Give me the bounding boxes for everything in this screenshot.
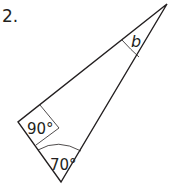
- angle-arc-70: [38, 144, 81, 151]
- angle-label-b: b: [131, 32, 141, 51]
- triangle: [18, 4, 167, 182]
- angle-label-70: 70°: [50, 156, 77, 174]
- triangle-diagram: 90° 70° b: [0, 0, 169, 189]
- angle-label-90: 90°: [27, 120, 54, 138]
